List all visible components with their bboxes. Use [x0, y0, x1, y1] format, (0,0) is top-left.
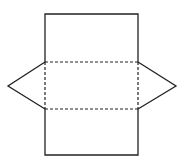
right-triangle-face [138, 62, 176, 109]
prism-net-diagram [0, 0, 191, 166]
left-triangle-face [8, 62, 45, 109]
top-face [45, 14, 138, 62]
bottom-face [45, 109, 138, 155]
